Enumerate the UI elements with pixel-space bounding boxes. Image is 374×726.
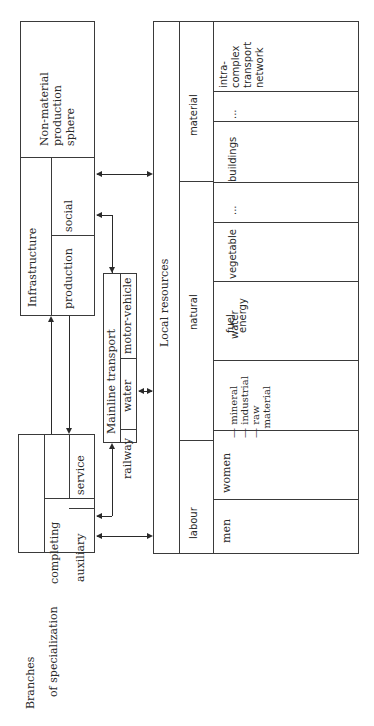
non-material-sphere-label: Non-material production sphere [38, 46, 74, 146]
item-divider-1 [213, 91, 359, 92]
item-buildings: buildings [227, 122, 241, 182]
branches-sublabel: of specialization [48, 597, 62, 697]
arrowhead-right-icon [147, 533, 153, 539]
service-auxiliary-split [69, 508, 95, 509]
item-vegetable: vegetable [227, 223, 241, 279]
group-natural-label: natural [188, 284, 202, 330]
completing-bottom-line [44, 498, 95, 499]
arrowhead-left-icon [96, 212, 102, 218]
infrastructure-divider [51, 157, 52, 316]
arrow-branches-to-infrastructure [51, 318, 52, 434]
arrow-mainline-branches-v [112, 445, 113, 516]
arrowhead-down-icon [66, 428, 72, 434]
mainline-mode-divider-1 [120, 358, 137, 359]
group-labour-label: labour [188, 489, 202, 539]
item-intra-complex-transport-network: intra- complex transport network [218, 38, 268, 88]
mainline-mode-divider-2 [120, 429, 137, 430]
arrow-nonmaterial-local [97, 174, 151, 175]
arrowhead-right-icon [147, 171, 153, 177]
item-mineral-industrial-raw-material: — mineral — industrial — raw material [228, 356, 274, 438]
arrowhead-up-icon [109, 443, 115, 449]
arrowhead-up-icon [48, 316, 54, 322]
local-resources-label: Local resources [159, 247, 173, 347]
auxiliary-label: auxiliary [75, 522, 89, 582]
item-divider-3 [213, 182, 359, 183]
mainline-mode-motor-vehicle: motor-vehicle [122, 276, 136, 354]
arrowhead-left-icon [96, 513, 102, 519]
arrowhead-left-icon [96, 533, 102, 539]
branches-divider [44, 434, 45, 553]
mainline-mode-water: water [122, 374, 136, 412]
arrowhead-left-icon [96, 171, 102, 177]
arrowhead-right-icon [147, 388, 153, 394]
service-label: service [75, 451, 89, 495]
infrastructure-sub-divider [51, 235, 95, 236]
completing-label: completing [49, 520, 63, 584]
item-divider-5 [213, 281, 359, 282]
item-natural-ellipsis: ... [227, 191, 241, 215]
local-resources-box [153, 21, 359, 554]
item-men: men [221, 507, 235, 543]
arrowhead-down-icon [109, 267, 115, 273]
arrowhead-left-icon [138, 388, 144, 394]
item-divider-8 [213, 499, 359, 500]
completing-sub-divider [69, 434, 70, 498]
mainline-mode-railway: railway [122, 435, 136, 479]
local-resources-title-divider [179, 21, 180, 554]
arrow-social-mainline-v [112, 215, 113, 273]
item-water-cell: water [229, 303, 243, 339]
local-resources-group-divider [213, 21, 214, 554]
arrow-infrastructure-to-branches [69, 316, 70, 432]
infrastructure-social-label: social [63, 182, 77, 232]
infrastructure-label: Infrastructure [27, 227, 41, 307]
natural-labour-divider [179, 440, 213, 441]
item-women: women [221, 437, 235, 493]
material-natural-divider [179, 181, 213, 182]
mainline-transport-label: Mainline transport [106, 334, 120, 434]
infrastructure-production-label: production [63, 245, 77, 309]
branches-label: Branches [25, 653, 39, 709]
item-material-ellipsis: ... [227, 95, 241, 119]
arrow-branches-local [97, 536, 151, 537]
group-material-label: material [188, 80, 202, 136]
